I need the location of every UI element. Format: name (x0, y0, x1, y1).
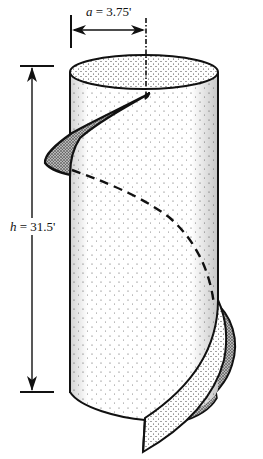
helix-cylinder-diagram: a = 3.75' h = 31.5' (0, 0, 263, 459)
radius-label: a = 3.75' (86, 5, 131, 18)
cylinder (70, 55, 218, 420)
radius-dimension (71, 15, 145, 48)
cylinder-top-ellipse (70, 55, 218, 89)
height-label: h = 31.5' (10, 218, 55, 235)
